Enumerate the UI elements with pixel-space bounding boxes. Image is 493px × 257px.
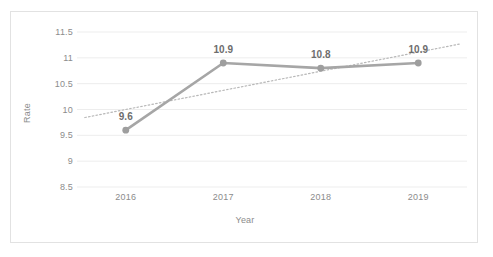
- plot-area: 9.610.910.810.9: [77, 32, 467, 187]
- x-axis-tick-label: 2018: [291, 192, 351, 202]
- y-axis-tick-label: 11.5: [37, 27, 73, 37]
- x-axis-tick-label: 2019: [388, 192, 448, 202]
- data-point-marker[interactable]: [122, 127, 129, 134]
- y-axis-tick-labels: 11.51110.5109.598.5: [37, 12, 73, 244]
- y-axis-tick-label: 8.5: [37, 182, 73, 192]
- y-axis-tick-label: 11: [37, 53, 73, 63]
- data-point-markers: [122, 60, 421, 134]
- cropped-caption-strip: .........................: [0, 0, 493, 8]
- data-point-value-label: 10.9: [409, 44, 428, 55]
- data-series-line: [126, 63, 419, 130]
- data-point-value-label: 9.6: [119, 111, 133, 122]
- data-point-value-label: 10.9: [214, 44, 233, 55]
- data-point-value-label: 10.8: [311, 49, 330, 60]
- data-point-marker[interactable]: [415, 60, 422, 67]
- y-axis-tick-label: 9: [37, 156, 73, 166]
- x-axis-tick-label: 2017: [193, 192, 253, 202]
- y-axis-tick-label: 10.5: [37, 79, 73, 89]
- trendline-dotted: [85, 44, 459, 117]
- x-axis-tick-label: 2016: [96, 192, 156, 202]
- y-axis-tick-label: 9.5: [37, 130, 73, 140]
- gridlines: [77, 32, 467, 187]
- caption-text: .........................: [62, 0, 136, 2]
- chart-body: Rate Year 11.51110.5109.598.5 2016201720…: [11, 12, 479, 244]
- chart-frame: Rate Year 11.51110.5109.598.5 2016201720…: [10, 11, 478, 243]
- data-point-marker[interactable]: [220, 60, 227, 67]
- y-axis-title: Rate: [22, 83, 32, 143]
- data-point-marker[interactable]: [317, 65, 324, 72]
- y-axis-tick-label: 10: [37, 105, 73, 115]
- plot-svg: [77, 32, 467, 187]
